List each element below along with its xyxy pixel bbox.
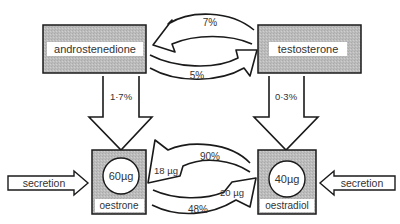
edge-label-90pct: 90%	[200, 151, 220, 162]
oestrone-label: oestrone	[100, 200, 139, 211]
steroid-conversion-diagram: androstenedione testosterone 7% 5% 1·7% …	[0, 0, 400, 224]
oestradiol-amount: 40µg	[275, 173, 300, 185]
edge-label-7pct: 7%	[203, 17, 218, 28]
arrow-oestrone-to-oestradiol: 48% 20 µg	[152, 178, 256, 215]
node-androstenedione: androstenedione	[43, 25, 146, 73]
arrow-androstenedione-to-oestrone: 1·7%	[89, 76, 152, 150]
node-oestradiol: 40µg oestradiol	[258, 150, 316, 214]
arrow-testosterone-to-androstenedione: 7%	[153, 14, 254, 52]
edge-label-1-7pct: 1·7%	[110, 91, 133, 102]
edge-label-48pct: 48%	[188, 204, 208, 215]
edge-label-0-3pct: 0·3%	[275, 91, 298, 102]
edge-amount-18ug: 18 µg	[154, 165, 178, 176]
androstenedione-label: androstenedione	[54, 43, 136, 55]
secretion-left-label: secretion	[23, 177, 66, 189]
arrow-secretion-into-oestrone: secretion	[8, 171, 88, 195]
oestrone-amount: 60µg	[109, 170, 134, 182]
arrow-androstenedione-to-testosterone: 5%	[150, 50, 257, 81]
edge-amount-20ug: 20 µg	[220, 187, 244, 198]
arrow-oestradiol-to-oestrone: 90% 18 µg	[148, 140, 250, 183]
arrow-secretion-into-oestradiol: secretion	[320, 171, 395, 195]
node-oestrone: 60µg oestrone	[92, 150, 146, 214]
secretion-right-label: secretion	[341, 177, 384, 189]
oestradiol-label: oestradiol	[265, 200, 308, 211]
edge-label-5pct: 5%	[190, 70, 205, 81]
arrow-testosterone-to-oestradiol: 0·3%	[254, 76, 318, 150]
testosterone-label: testosterone	[278, 43, 339, 55]
node-testosterone: testosterone	[258, 25, 361, 73]
